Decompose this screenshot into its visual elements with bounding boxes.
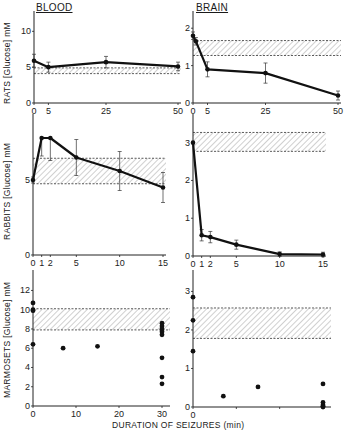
x-tick-label: 25 [101,106,111,116]
normal-range-band [193,132,326,151]
data-point [32,58,37,63]
data-point [277,252,282,257]
x-tick-label: 0 [190,410,195,420]
x-axis-label: DURATION OF SEIZURES (min) [112,420,244,430]
x-tick-label: 2 [208,259,213,269]
x-tick-label: 10 [275,259,285,269]
x-tick-label: 20 [114,409,124,419]
data-point [31,342,36,347]
data-point [95,344,100,349]
y-tick-label: 0 [25,250,30,260]
x-tick-label: 0 [190,259,195,269]
y-tick-label: 0 [185,251,190,261]
y-tick-label: 12 [20,285,30,295]
data-point [176,64,181,69]
x-tick-label: 0 [30,409,35,419]
x-tick-label: 25 [260,106,270,116]
data-point [160,355,165,360]
panel-marmosets-brain: 01230 [185,270,331,420]
panel-rabbits-brain: 012301251015 [185,114,328,269]
data-point [39,136,44,141]
y-tick-label: 1 [185,213,190,223]
y-tick-label: 6 [25,343,30,353]
y-tick-label: 0 [185,402,190,412]
normal-range-band [193,41,341,56]
data-point [160,381,165,386]
data-point [104,60,109,65]
data-point [191,349,196,354]
x-tick-label: 10 [71,409,81,419]
data-point [208,235,213,240]
data-point [191,140,196,145]
panel-rabbits-blood: 0501251015 [25,114,168,268]
y-tick-label: 10 [20,305,30,315]
x-tick-label: 0 [30,258,35,268]
data-point [31,301,36,306]
y-tick-label: 2 [25,382,30,392]
y-tick-label: 5 [26,62,31,72]
x-tick-label: 50 [333,106,343,116]
data-point [48,136,53,141]
data-point [194,39,199,44]
x-tick-label: 5 [74,258,79,268]
data-point [161,185,166,190]
data-point [117,169,122,174]
y-tick-label: 3 [185,138,190,148]
data-point [199,233,204,238]
data-point [321,381,326,386]
data-point [160,332,165,337]
y-tick-label: 4 [25,362,30,372]
y-tick-label: 8 [25,324,30,334]
panel-rats-blood: 0510052550 [21,11,183,116]
y-tick-label: 2 [185,175,190,185]
y-tick-label: 2 [185,325,190,335]
x-tick-label: 10 [115,258,125,268]
x-tick-label: 50 [173,106,183,116]
x-tick-label: 5 [46,106,51,116]
column-title-blood: BLOOD [36,2,73,13]
data-point [74,155,79,160]
data-point [191,33,196,38]
data-point [205,67,210,72]
y-tick-label: 0 [25,401,30,411]
y-tick-label: 0 [185,98,190,108]
figure-canvas: 0510052550012052550050125101501230125101… [0,0,351,437]
y-tick-label: 10 [21,26,31,36]
y-tick-label: 0 [26,98,31,108]
data-point [256,385,261,390]
y-tick-label: 2 [185,23,190,33]
x-tick-label: 1 [199,259,204,269]
y-tick-label: 1 [185,61,190,71]
data-point [234,242,239,247]
x-tick-label: 30 [157,409,167,419]
x-tick-label: 15 [318,259,328,269]
x-tick-label: 5 [234,259,239,269]
y-tick-label: 5 [25,175,30,185]
x-tick-label: 2 [48,258,53,268]
x-tick-label: 0 [31,106,36,116]
panel-rats-brain: 012052550 [185,11,343,116]
data-point [191,295,196,300]
data-point [46,65,51,70]
data-point [191,318,196,323]
data-point [221,394,226,399]
data-point [61,346,66,351]
normal-range-band [193,308,331,338]
data-point [321,405,326,410]
x-tick-label: 1 [39,258,44,268]
row-label-rabbits: RABBITS [Glucose] mM [2,143,12,240]
normal-range-band [34,68,181,74]
data-point [321,252,326,257]
y-tick-label: 3 [185,286,190,296]
row-label-rats: RATS [Glucose] mM [2,22,12,104]
x-tick-label: 5 [205,106,210,116]
row-label-marmosets: MARMOSETS [Glucose] mM [2,282,12,398]
data-point [160,375,165,380]
y-tick-label: 1 [185,363,190,373]
data-point [263,71,268,76]
normal-range-band [33,309,170,330]
data-point [31,308,36,313]
column-title-brain: BRAIN [196,2,228,13]
panel-marmosets-blood: 0246810120102030 [20,270,170,419]
data-point [31,178,36,183]
